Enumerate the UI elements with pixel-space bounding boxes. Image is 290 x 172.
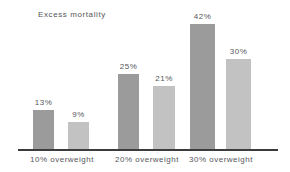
bar-value-label: 42% (182, 12, 223, 21)
bar-value-label: 30% (218, 47, 259, 56)
bar (190, 24, 215, 149)
plot-area: 13%9%25%21%42%30% (0, 0, 290, 150)
bar-value-label: 9% (60, 110, 97, 119)
bar-chart: Excess mortality 13%9%25%21%42%30% 10% o… (0, 0, 290, 172)
bar (118, 74, 139, 149)
bar-value-label: 25% (110, 62, 147, 71)
bar (68, 122, 89, 149)
x-axis-line (18, 149, 278, 151)
bar (226, 59, 251, 149)
bar (153, 86, 175, 149)
bar-value-label: 13% (25, 98, 62, 107)
category-label: 30% overweight (176, 155, 266, 164)
bar-value-label: 21% (145, 74, 183, 83)
category-axis-labels: 10% overweight20% overweight30% overweig… (0, 155, 290, 172)
bar (33, 110, 54, 149)
category-label: 10% overweight (17, 155, 107, 164)
